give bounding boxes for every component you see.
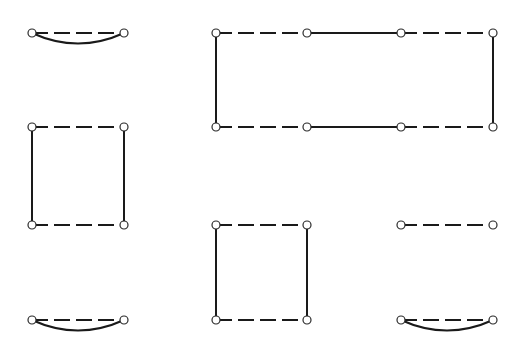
lens-bottom-right [397,316,497,331]
vertex-node [28,221,36,229]
solid-edge [32,33,124,44]
graph-diagram [0,0,524,351]
vertex-node [397,221,405,229]
solid-edge [32,320,124,331]
vertex-node [28,316,36,324]
vertex-node [303,123,311,131]
vertex-node [120,29,128,37]
vertex-node [28,29,36,37]
rect-large [212,29,497,131]
lens-bottom-left [28,316,128,331]
vertex-node [303,221,311,229]
square-left [28,123,128,229]
vertex-node [397,316,405,324]
vertex-node [212,221,220,229]
vertex-node [303,29,311,37]
segment-right [397,221,497,229]
square-middle [212,221,311,324]
vertex-node [303,316,311,324]
vertex-node [397,29,405,37]
vertex-node [489,123,497,131]
solid-edge [401,320,493,331]
vertex-node [212,123,220,131]
vertex-node [212,29,220,37]
vertex-node [120,316,128,324]
vertex-node [489,316,497,324]
vertex-node [397,123,405,131]
vertex-node [489,29,497,37]
vertex-node [489,221,497,229]
vertex-node [28,123,36,131]
vertex-node [212,316,220,324]
lens-top-left [28,29,128,44]
vertex-node [120,123,128,131]
vertex-node [120,221,128,229]
